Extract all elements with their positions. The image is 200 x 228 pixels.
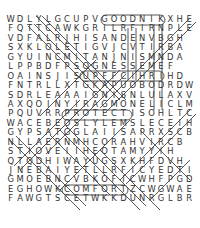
letter-cell[interactable] xyxy=(184,62,193,71)
grid-row: GYPSATGGLAIISAPRXSCB xyxy=(6,128,194,137)
letter-cell[interactable]: R xyxy=(184,194,193,203)
letter-cell[interactable]: D xyxy=(119,194,128,203)
letter-cell[interactable]: E xyxy=(72,194,81,203)
grid-row: SXKLOLETIGVJCVTIRBA xyxy=(6,43,194,52)
letter-cell[interactable]: R xyxy=(147,194,156,203)
letter-cell[interactable]: B xyxy=(175,194,184,203)
letter-cell[interactable]: L xyxy=(166,194,175,203)
letter-cell[interactable]: W xyxy=(25,194,34,203)
grid-row: PQUVRRPROTECTISOHLTC xyxy=(6,109,194,118)
grid-row: JNEBAIYETLLRFICYEDTI xyxy=(6,166,194,175)
letter-cell[interactable]: S xyxy=(53,194,62,203)
grid-row: EGHOWKCOMFORTZCWGWAE xyxy=(6,185,194,194)
letter-cell[interactable]: G xyxy=(156,194,165,203)
letter-cell[interactable]: A xyxy=(175,53,184,62)
letter-cell[interactable] xyxy=(184,147,193,156)
letter-cell[interactable]: N xyxy=(137,194,146,203)
letter-cell[interactable]: T xyxy=(44,194,53,203)
letter-cell[interactable]: K xyxy=(100,194,109,203)
grid-row: OAINSJISUPFFCIHRIHD xyxy=(6,72,194,81)
letter-cell[interactable] xyxy=(184,138,193,147)
grid-row: FAWGTSCETWKKDUNRGLBR xyxy=(6,194,194,203)
grid-row: VDFALRJHISANDENVBGH xyxy=(6,34,194,43)
letter-cell[interactable]: C xyxy=(62,194,71,203)
grid-row: NLLAERNMHCORAHVIRCB xyxy=(6,138,194,147)
letter-cell[interactable] xyxy=(184,34,193,43)
letter-cell[interactable]: B xyxy=(184,128,193,137)
grid-row: WACEBEOSLYLEMSLECEIH xyxy=(6,119,194,128)
grid-row: FNTRLLXTGKAPUOBODRDW xyxy=(6,81,194,90)
letter-cell[interactable]: G xyxy=(34,194,43,203)
letter-cell[interactable] xyxy=(184,43,193,52)
letter-cell[interactable]: B xyxy=(175,138,184,147)
letter-cell[interactable]: E xyxy=(184,24,193,33)
letter-cell[interactable]: T xyxy=(81,194,90,203)
grid-row: LPPBDFPSOGNESSEMEF xyxy=(6,62,194,71)
letter-cell[interactable]: F xyxy=(6,194,15,203)
grid-row: WDLYLGCUPVGOODNIKXHE xyxy=(6,15,194,24)
letter-cell[interactable]: K xyxy=(109,194,118,203)
grid-row: STIOVEIIHEOTAMYYIH xyxy=(6,147,194,156)
grid-row: FQTTCAWKGRILRFIRNPLE xyxy=(6,24,194,33)
letter-cell[interactable]: U xyxy=(128,194,137,203)
grid-row: AXQOINYIRAGMONELICLM xyxy=(6,100,194,109)
letter-cell[interactable]: A xyxy=(15,194,24,203)
grid-row: GYUINCMITANJNISMNDA xyxy=(6,53,194,62)
grid-row: SDRLEAAAIGNISNLULAXV xyxy=(6,91,194,100)
letter-cell[interactable] xyxy=(184,53,193,62)
word-search-grid: WDLYLGCUPVGOODNIKXHEFQTTCAWKGRILRFIRNPLE… xyxy=(6,15,194,204)
grid-row: QTQDHIWAYUGSXKHFDVH xyxy=(6,157,194,166)
letter-cell[interactable]: W xyxy=(91,194,100,203)
